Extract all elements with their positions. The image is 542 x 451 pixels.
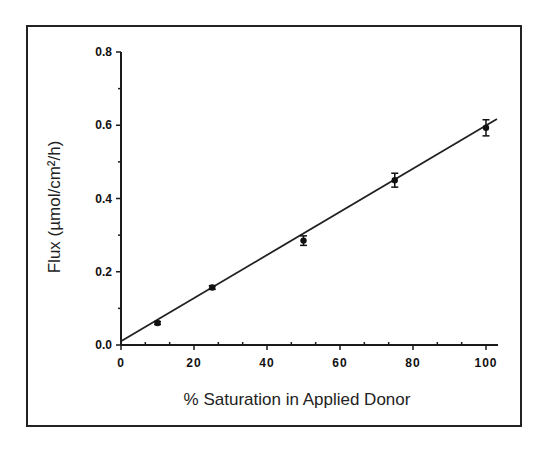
y-tick-label: 0.2: [95, 265, 112, 279]
x-axis-label: % Saturation in Applied Donor: [184, 390, 411, 409]
x-tick-label: 40: [259, 356, 274, 370]
y-tick-label: 0.6: [95, 118, 112, 132]
flux-chart: 0.00.20.40.60.8020406080100 Flux (µmol/c…: [0, 0, 542, 451]
point-marker: [154, 320, 160, 326]
y-axis-label: Flux (µmol/cm²/h): [45, 141, 64, 274]
point-marker: [392, 177, 398, 183]
y-tick-label: 0.8: [95, 45, 112, 59]
x-tick-label: 0: [117, 356, 125, 370]
data-point: [300, 236, 307, 246]
y-tick-label: 0.0: [95, 338, 112, 352]
data-point: [209, 284, 216, 290]
point-marker: [209, 284, 215, 290]
x-tick-label: 100: [474, 356, 497, 370]
point-marker: [483, 125, 489, 131]
axes: [121, 52, 498, 345]
x-tick-label: 20: [186, 356, 201, 370]
x-tick-label: 60: [332, 356, 347, 370]
y-tick-label: 0.4: [95, 192, 112, 206]
x-tick-label: 80: [405, 356, 420, 370]
fit-line: [121, 119, 497, 341]
regression-line: [121, 119, 497, 341]
point-marker: [300, 237, 306, 243]
data-point: [391, 173, 398, 187]
data-point: [483, 120, 490, 136]
